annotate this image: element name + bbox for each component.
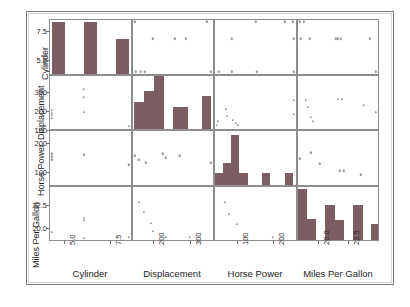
data-point xyxy=(318,162,320,164)
data-point xyxy=(311,120,313,122)
data-point xyxy=(359,173,361,175)
histogram-bar xyxy=(298,189,307,240)
x-tick-mark xyxy=(190,241,191,244)
cell-miles-per-gallon-vs-cylinder[interactable] xyxy=(49,186,132,242)
scatter-plot-matrix-figure: Cylinder Displacement Horse Power Miles … xyxy=(0,0,410,307)
x-tick-mark xyxy=(153,241,154,244)
histogram-bar xyxy=(144,91,154,129)
data-point xyxy=(205,20,207,22)
data-point xyxy=(164,156,166,158)
data-point xyxy=(225,108,227,110)
cell-displacement-vs-miles-per-gallon[interactable] xyxy=(297,75,380,131)
data-point xyxy=(83,88,85,90)
data-point xyxy=(142,211,144,213)
cell-horse-power-vs-displacement[interactable] xyxy=(132,130,215,186)
data-point xyxy=(309,116,311,118)
data-point xyxy=(51,158,53,160)
data-point xyxy=(231,37,233,39)
data-point xyxy=(374,70,376,72)
data-point xyxy=(306,106,308,108)
x-tick-mark xyxy=(237,241,238,244)
data-point xyxy=(143,70,145,72)
data-point xyxy=(255,20,257,22)
data-point xyxy=(184,37,186,39)
data-point xyxy=(139,70,141,72)
cell-horse-power-vs-cylinder[interactable] xyxy=(49,130,132,186)
data-point xyxy=(226,115,228,117)
data-point xyxy=(336,98,338,100)
histogram-bar xyxy=(154,76,164,129)
data-point xyxy=(188,236,190,238)
data-point xyxy=(218,70,220,72)
x-tick-mark xyxy=(273,241,274,244)
x-tick-label: 5.0 xyxy=(68,235,77,245)
data-point xyxy=(83,153,85,155)
cell-miles-per-gallon-miles-per-gallon-histogram[interactable] xyxy=(297,186,380,242)
data-point xyxy=(217,120,219,122)
histogram-bar xyxy=(285,173,293,185)
data-point xyxy=(228,213,230,215)
cell-cylinder-vs-displacement[interactable] xyxy=(132,19,215,75)
histogram-bar xyxy=(173,107,188,129)
histogram-bar xyxy=(52,22,65,74)
data-point xyxy=(338,169,340,171)
histogram-bar xyxy=(239,173,248,185)
data-point xyxy=(144,161,146,163)
histogram-bar xyxy=(84,22,97,74)
x-tick-label: 22.5 xyxy=(352,230,361,245)
data-point xyxy=(342,169,344,171)
data-point xyxy=(133,20,135,22)
data-point xyxy=(339,37,341,39)
data-point xyxy=(272,236,274,238)
histogram-bar xyxy=(134,102,144,129)
x-tick-mark xyxy=(64,241,65,244)
x-axis-name-horse-power: Horse Power xyxy=(214,268,296,279)
data-point xyxy=(83,111,85,113)
data-point xyxy=(134,70,136,72)
data-point xyxy=(293,99,295,101)
histogram-bar xyxy=(307,219,316,240)
data-point xyxy=(340,98,342,100)
data-point xyxy=(83,237,85,239)
data-point xyxy=(293,113,295,115)
data-point xyxy=(83,96,85,98)
cell-cylinder-vs-miles-per-gallon[interactable] xyxy=(297,19,380,75)
data-point xyxy=(216,124,218,126)
x-tick-label: 7.5 xyxy=(114,235,123,245)
x-tick-label: 200 xyxy=(277,232,286,245)
data-point xyxy=(173,37,175,39)
x-tick-mark xyxy=(110,241,111,244)
data-point xyxy=(304,99,306,101)
cell-displacement-vs-horse-power[interactable] xyxy=(214,75,297,131)
x-axis-name-cylinder: Cylinder xyxy=(49,268,131,279)
x-axis-name-displacement: Displacement xyxy=(131,268,213,279)
data-point xyxy=(293,37,295,39)
data-point xyxy=(151,230,153,232)
data-point xyxy=(224,201,226,203)
x-tick-label: 200 xyxy=(157,232,166,245)
data-point xyxy=(256,70,258,72)
data-point xyxy=(298,20,300,22)
data-point xyxy=(128,236,130,238)
data-point xyxy=(231,70,233,72)
data-point xyxy=(83,219,85,221)
cell-displacement-displacement-histogram[interactable] xyxy=(132,75,215,131)
cell-horse-power-horse-power-histogram[interactable] xyxy=(214,130,297,186)
data-point xyxy=(133,154,135,156)
data-point xyxy=(368,37,370,39)
data-point xyxy=(302,20,304,22)
data-point xyxy=(232,119,234,121)
data-point xyxy=(51,231,53,233)
cell-cylinder-vs-horse-power[interactable] xyxy=(214,19,297,75)
data-point xyxy=(374,111,376,113)
x-tick-mark xyxy=(318,241,319,244)
cell-horse-power-vs-miles-per-gallon[interactable] xyxy=(297,130,380,186)
cell-cylinder-cylinder-histogram[interactable] xyxy=(49,19,132,75)
data-point xyxy=(284,20,286,22)
y-tick-label: 22.5 xyxy=(32,201,47,210)
data-point xyxy=(137,201,139,203)
histogram-bar xyxy=(371,224,380,240)
cell-displacement-vs-cylinder[interactable] xyxy=(49,75,132,131)
x-tick-label: 300 xyxy=(194,232,203,245)
histogram-bar xyxy=(335,220,344,240)
